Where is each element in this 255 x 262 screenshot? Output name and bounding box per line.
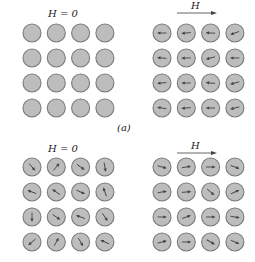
domain-circle — [23, 49, 41, 67]
domain-circle — [23, 24, 41, 42]
domain-cell — [177, 49, 195, 67]
domain-circle — [96, 74, 114, 92]
domain-cell — [202, 24, 220, 42]
domain-cell — [72, 158, 90, 176]
domain-circle — [72, 74, 90, 92]
domain-cell — [72, 233, 90, 251]
domain-cell — [226, 99, 244, 117]
field-label-bottom-right: H — [190, 140, 200, 151]
domain-cell — [47, 99, 65, 117]
domain-circle — [72, 99, 90, 117]
domain-cell — [96, 24, 114, 42]
domain-circle — [72, 24, 90, 42]
domain-circle — [96, 99, 114, 117]
panel-label-top-left: H = 0 — [47, 8, 78, 19]
domain-circle — [47, 24, 65, 42]
domain-cell — [72, 99, 90, 117]
domain-circle — [47, 49, 65, 67]
domain-cell — [177, 74, 195, 92]
domain-cell — [96, 208, 114, 226]
domain-cell — [47, 158, 65, 176]
domain-cell — [202, 158, 220, 176]
arrow-right-icon — [211, 11, 217, 15]
domain-cell — [177, 24, 195, 42]
domain-cell — [177, 158, 195, 176]
domain-cell — [96, 74, 114, 92]
domain-cell — [72, 208, 90, 226]
domain-cell — [72, 49, 90, 67]
domain-cell — [177, 183, 195, 201]
domain-grid-bottom-right — [153, 158, 244, 251]
domain-cell — [177, 233, 195, 251]
domain-cell — [226, 208, 244, 226]
domain-circle — [96, 49, 114, 67]
domain-cell — [177, 99, 195, 117]
domain-grid-top-right — [153, 24, 244, 117]
domain-cell — [226, 24, 244, 42]
domain-cell — [153, 183, 171, 201]
domain-cell — [23, 208, 41, 226]
domain-cell — [153, 158, 171, 176]
domain-cell — [96, 183, 114, 201]
domain-cell — [23, 49, 41, 67]
domain-circle — [47, 99, 65, 117]
domain-cell — [202, 49, 220, 67]
domain-cell — [202, 183, 220, 201]
domain-cell — [23, 99, 41, 117]
domain-cell — [96, 233, 114, 251]
domain-cell — [47, 49, 65, 67]
domain-cell — [23, 183, 41, 201]
domain-cell — [96, 99, 114, 117]
domain-cell — [226, 49, 244, 67]
field-label-top-right: H — [190, 0, 200, 11]
domain-cell — [47, 24, 65, 42]
domain-cell — [72, 74, 90, 92]
domain-circle — [96, 24, 114, 42]
field-arrow-bottom-right: H — [177, 140, 217, 155]
domain-cell — [202, 233, 220, 251]
domain-cell — [72, 24, 90, 42]
domain-cell — [226, 183, 244, 201]
field-arrow-top-right: H — [177, 0, 217, 15]
domain-grid-top-left — [23, 24, 114, 117]
caption-a: (a) — [117, 122, 131, 133]
domain-cell — [202, 74, 220, 92]
domain-cell — [47, 183, 65, 201]
magnetic-domains-figure: H = 0 H (a) H = 0 H — [0, 0, 255, 262]
domain-circle — [23, 99, 41, 117]
domain-circle — [72, 49, 90, 67]
domain-circle — [47, 74, 65, 92]
domain-cell — [153, 24, 171, 42]
domain-cell — [202, 99, 220, 117]
domain-cell — [202, 208, 220, 226]
panel-label-bottom-left: H = 0 — [47, 143, 78, 154]
domain-cell — [153, 99, 171, 117]
domain-cell — [47, 208, 65, 226]
domain-cell — [23, 74, 41, 92]
domain-cell — [153, 74, 171, 92]
domain-cell — [23, 158, 41, 176]
domain-cell — [226, 74, 244, 92]
domain-cell — [177, 208, 195, 226]
domain-grid-bottom-left — [23, 158, 114, 251]
domain-cell — [23, 24, 41, 42]
domain-cell — [23, 233, 41, 251]
domain-cell — [226, 233, 244, 251]
domain-cell — [153, 208, 171, 226]
domain-cell — [226, 158, 244, 176]
domain-cell — [47, 74, 65, 92]
arrow-right-icon — [211, 151, 217, 155]
domain-circle — [23, 74, 41, 92]
domain-cell — [96, 49, 114, 67]
domain-cell — [96, 158, 114, 176]
domain-cell — [153, 49, 171, 67]
domain-cell — [47, 233, 65, 251]
domain-cell — [153, 233, 171, 251]
domain-cell — [72, 183, 90, 201]
